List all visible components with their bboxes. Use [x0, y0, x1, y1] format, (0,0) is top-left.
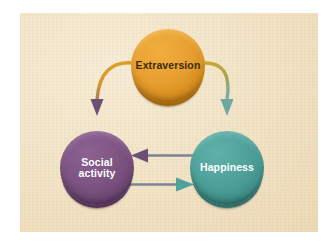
arrow-head [91, 99, 104, 116]
arrow-shaft [203, 63, 228, 100]
arrow-extraversion-to-happiness [203, 63, 234, 116]
arrow-head [131, 149, 148, 163]
node-social-activity: Social activity [60, 131, 134, 205]
node-social-activity-label-line-2: activity [79, 167, 116, 179]
node-happiness: Happiness [190, 131, 264, 205]
node-extraversion: Extraversion [131, 29, 205, 103]
node-happiness-label: Happiness [200, 162, 254, 173]
arrow-shaft [97, 63, 133, 100]
node-social-activity-label: Social activity [79, 157, 116, 179]
node-extraversion-label: Extraversion [136, 60, 201, 71]
diagram-figure: Extraversion Social activity Happiness [0, 0, 335, 244]
arrow-extraversion-to-social-activity [91, 63, 134, 116]
arrow-head [221, 99, 234, 116]
arrow-social-activity-to-happiness [127, 178, 194, 192]
arrow-happiness-to-social-activity [131, 149, 198, 163]
